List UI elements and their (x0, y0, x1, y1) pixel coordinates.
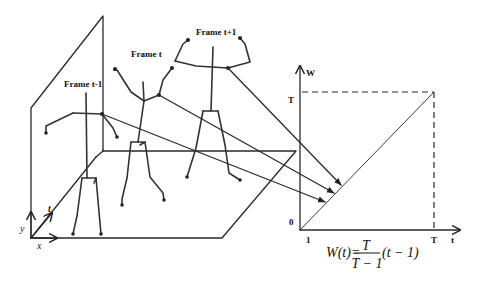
weight-line (300, 92, 434, 230)
arrow-frame-t-plus-1 (228, 68, 341, 185)
t-axis-label: t (451, 235, 454, 245)
y-tick-T: T (288, 95, 294, 105)
formula-numerator: T (362, 238, 371, 253)
diagram-canvas: y x t Frame t-1 Frame t Frame t+1 (0, 0, 482, 282)
t-axis-arrow (31, 213, 52, 238)
w-axis-label: W (306, 68, 315, 78)
x-tick-1: 1 (306, 235, 311, 245)
formula-rhs: (t − 1) (382, 245, 419, 261)
weight-graph: W T 0 1 T t (288, 66, 460, 245)
skeleton-frame-t-plus-1: Frame t+1 (175, 27, 250, 182)
skeleton-frame-t: Frame t (113, 49, 174, 207)
arrow-frame-t (159, 95, 334, 193)
frame-label-t-plus-1: Frame t+1 (196, 27, 237, 37)
arrow-frame-t-minus-1 (102, 114, 325, 202)
vertical-plane (31, 16, 103, 238)
weight-formula: W(t)= T T − 1 (t − 1) (326, 238, 419, 271)
y-axis-label: y (19, 223, 25, 234)
y-tick-0: 0 (289, 217, 294, 227)
mapping-arrows (102, 68, 341, 202)
frame-label-t-minus-1: Frame t-1 (64, 79, 103, 89)
skeleton-frame-t-minus-1: Frame t-1 (44, 79, 119, 236)
x-tick-T: T (431, 235, 437, 245)
x-axis-label: x (36, 240, 42, 251)
frame-label-t: Frame t (131, 49, 162, 59)
formula-denominator: T − 1 (352, 256, 383, 271)
